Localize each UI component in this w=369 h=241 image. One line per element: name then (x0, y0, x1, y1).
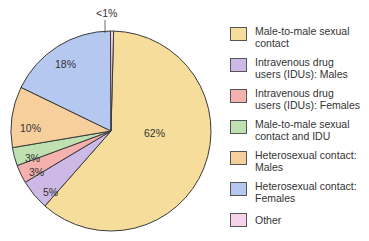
legend-item-idu-females: Intravenous drugusers (IDUs): Females (230, 87, 369, 118)
legend-label: Male-to-male sexualcontact and IDU (255, 118, 350, 142)
legend-swatch (230, 58, 247, 72)
legend-label: Intravenous drugusers (IDUs): Males (255, 56, 348, 80)
legend-label: Male-to-male sexualcontact (255, 25, 350, 49)
slice-label: 3% (25, 152, 40, 164)
legend-item-male-to-male: Male-to-male sexualcontact (230, 25, 369, 56)
slice-label: 62% (144, 127, 165, 139)
legend-swatch (230, 120, 247, 134)
legend-label: Other (255, 214, 281, 226)
legend-swatch (230, 27, 247, 41)
slice-label: 10% (20, 122, 41, 134)
legend-swatch (230, 89, 247, 103)
legend-item-idu-males: Intravenous drugusers (IDUs): Males (230, 56, 369, 87)
legend-label: Heterosexual contact:Females (255, 180, 357, 204)
legend-item-hetero-males: Heterosexual contact:Males (230, 149, 369, 180)
legend: Male-to-male sexualcontact Intravenous d… (230, 25, 369, 241)
legend-label: Heterosexual contact:Males (255, 149, 357, 173)
slice-label: 3% (29, 166, 44, 178)
legend-swatch (230, 182, 247, 196)
pie-chart: 62%5%3%3%10%18%<1% (0, 0, 230, 241)
legend-swatch (230, 151, 247, 165)
legend-item-male-to-male-idu: Male-to-male sexualcontact and IDU (230, 118, 369, 149)
slice-label: 5% (43, 186, 58, 198)
slice-label: 18% (55, 58, 76, 70)
legend-label: Intravenous drugusers (IDUs): Females (255, 87, 360, 111)
slice-label-other: <1% (96, 7, 117, 19)
legend-swatch (230, 213, 247, 227)
legend-item-other: Other (230, 211, 369, 241)
legend-item-hetero-females: Heterosexual contact:Females (230, 180, 369, 211)
